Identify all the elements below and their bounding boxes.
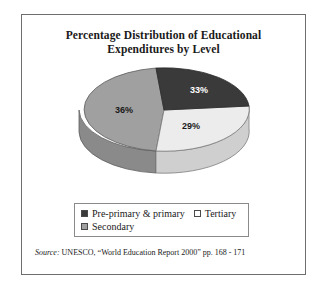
slice-label-secondary: 36%	[114, 105, 132, 115]
legend-swatch-icon-tertiary	[194, 210, 201, 217]
page-title: Percentage Distribution of Educational E…	[22, 28, 305, 56]
legend-item-pre-primary-primary[interactable]: Pre-primary & primary	[81, 208, 185, 220]
source-label: Source:	[35, 248, 60, 257]
source-text: UNESCO, “World Education Report 2000” pp…	[60, 248, 246, 257]
legend-item-tertiary[interactable]: Tertiary	[194, 208, 237, 220]
title-line-2: Expenditures by Level	[22, 42, 305, 56]
legend-label-secondary: Secondary	[92, 221, 134, 233]
legend-row-1: Pre-primary & primary Tertiary	[81, 207, 243, 220]
legend-label-tertiary: Tertiary	[205, 208, 237, 220]
legend-label-pre-primary-primary: Pre-primary & primary	[92, 208, 185, 220]
legend-swatch-icon-pre-primary-primary	[81, 210, 88, 217]
figure-frame: Percentage Distribution of Educational E…	[21, 14, 306, 275]
legend-swatch-icon-secondary	[81, 223, 88, 230]
title-line-1: Percentage Distribution of Educational	[22, 28, 305, 42]
legend-item-secondary[interactable]: Secondary	[81, 221, 134, 233]
pie-chart-svg: 33% 29% 36%	[74, 63, 254, 181]
slice-label-tertiary: 29%	[181, 121, 199, 131]
slice-label-pre-primary-primary: 33%	[189, 85, 207, 95]
legend: Pre-primary & primary Tertiary Secondary	[74, 203, 249, 237]
pie-chart: 33% 29% 36%	[22, 63, 305, 203]
legend-row-2: Secondary	[81, 220, 243, 233]
source-note: Source: UNESCO, “World Education Report …	[35, 248, 245, 257]
